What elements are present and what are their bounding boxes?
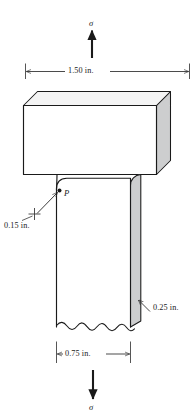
stress-label-top: σ	[89, 19, 93, 28]
dimension-flange-width	[26, 64, 190, 80]
dimension-label-flange-width: 1.50 in.	[66, 67, 96, 75]
fillet-center-cross	[29, 208, 41, 220]
stem-right-face	[131, 175, 141, 328]
stress-diagram-figure: σ 1.50 in. P 0.15 in. 0.25 in. 0.75 in. …	[0, 0, 196, 419]
point-p-label: P	[64, 189, 69, 198]
dimension-label-fillet-radius: 0.15 in.	[3, 222, 31, 230]
point-p-leader	[37, 193, 58, 214]
dimension-label-stem-width: 0.75 in.	[63, 350, 93, 358]
flange-front-face	[24, 106, 157, 175]
dimension-label-thickness: 0.25 in.	[152, 304, 180, 312]
point-p-dot	[58, 189, 62, 193]
stem-block	[24, 175, 157, 328]
point-p-marker	[22, 189, 62, 221]
diagram-canvas	[0, 0, 196, 419]
stem-front-face	[57, 178, 131, 327]
fillet-arc-left	[57, 175, 58, 190]
stress-label-bottom: σ	[89, 403, 93, 412]
flange-top-face	[24, 92, 171, 106]
flange-block	[24, 92, 171, 175]
